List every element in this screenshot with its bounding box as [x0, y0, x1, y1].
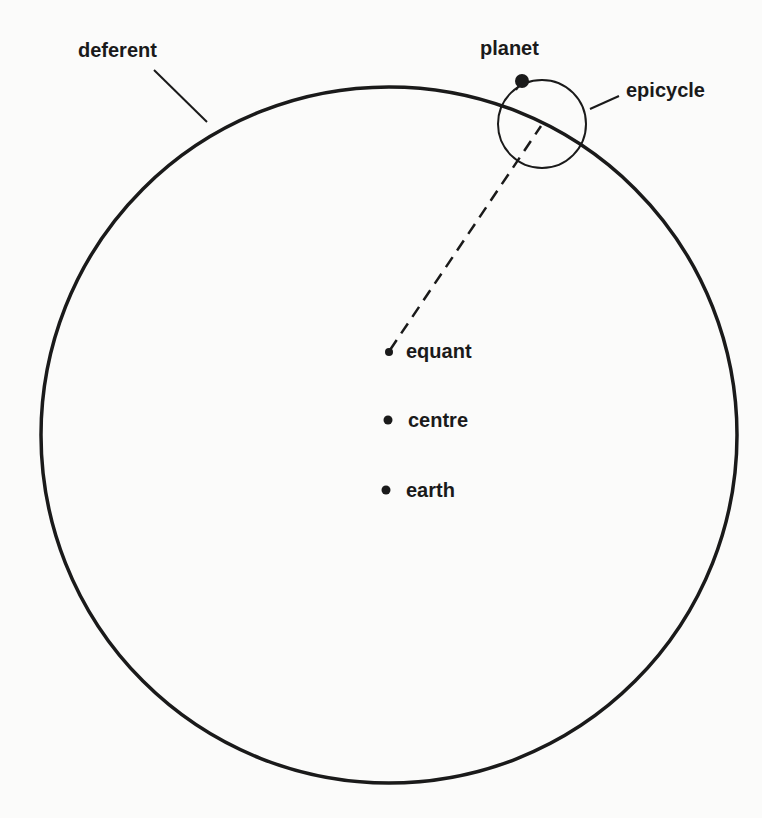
epicycle-label: epicycle: [626, 79, 705, 101]
planet-label: planet: [480, 37, 539, 59]
equant-label: equant: [406, 340, 472, 362]
epicycle-leader-line: [590, 96, 619, 109]
deferent-label: deferent: [78, 39, 157, 61]
planet-dot: [515, 74, 529, 88]
equant-to-epicycle-dashed-line: [390, 126, 541, 350]
earth-label: earth: [406, 479, 455, 501]
ptolemaic-diagram: deferent planet epicycle equant centre e…: [0, 0, 762, 818]
centre-dot: [384, 416, 393, 425]
centre-label: centre: [408, 409, 468, 431]
deferent-leader-line: [154, 70, 207, 122]
equant-dot: [385, 348, 393, 356]
deferent-circle: [41, 87, 737, 783]
earth-dot: [382, 486, 391, 495]
